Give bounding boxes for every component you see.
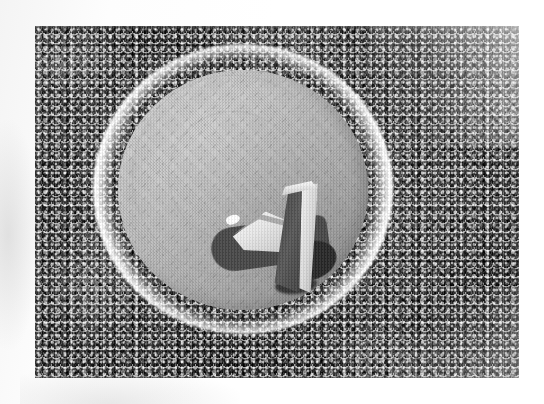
- page-root: Aerial view of an immense dense crowd of…: [0, 0, 544, 404]
- photograph: Aerial view of an immense dense crowd of…: [35, 26, 519, 378]
- paper-smudge-left: [0, 120, 40, 350]
- arena-floor-figures: [118, 70, 368, 310]
